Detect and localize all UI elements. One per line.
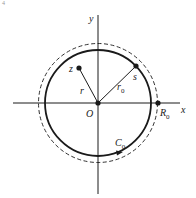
point-r0: [155, 100, 160, 105]
contour-c0-label: C0: [115, 137, 126, 151]
point-s-label: s: [133, 71, 137, 82]
point-z-label: z: [68, 63, 73, 74]
point-z: [76, 65, 81, 70]
segment-r0-label: r0: [117, 81, 125, 95]
complex-plane-diagram: 4 y x O z s r r0 R0 C0: [0, 0, 196, 198]
point-origin: [95, 100, 100, 105]
segment-r-label: r: [80, 85, 84, 96]
origin-label: O: [86, 108, 93, 119]
y-axis-label: y: [88, 13, 94, 24]
corner-mark: 4: [2, 0, 5, 6]
point-s: [133, 63, 138, 68]
x-axis-label: x: [180, 104, 186, 115]
point-r0-label: R0: [159, 107, 170, 121]
